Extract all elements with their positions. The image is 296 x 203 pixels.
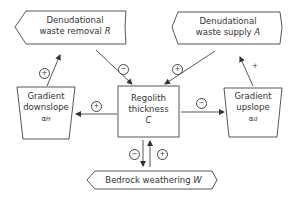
- sign-removal-regolith: −: [118, 64, 129, 75]
- bedrock-node: Bedrock weathering W: [95, 175, 212, 186]
- supply-line2: waste supply A: [178, 27, 278, 38]
- downslope-line2: downslope: [17, 102, 75, 113]
- sign-bedrock-regolith: +: [157, 149, 168, 160]
- sign-downslope-removal: +: [39, 68, 50, 79]
- removal-node: Denudational waste removal R: [30, 15, 120, 37]
- upslope-line2: upslope: [224, 102, 282, 113]
- removal-line1: Denudational: [30, 15, 120, 26]
- downslope-node: Gradient downslope αH: [17, 91, 75, 125]
- regolith-node: Regolith thickness C: [118, 93, 179, 126]
- downslope-symbol: αH: [17, 113, 75, 125]
- upslope-line1: Gradient: [224, 91, 282, 102]
- sign-supply-regolith: +: [172, 64, 183, 75]
- upslope-node: Gradient upslope αd: [224, 91, 282, 125]
- regolith-line1: Regolith: [118, 93, 179, 104]
- sign-regolith-bedrock: −: [129, 149, 140, 160]
- regolith-symbol: C: [118, 115, 179, 126]
- removal-line2: waste removal R: [30, 26, 120, 37]
- upslope-symbol: αd: [224, 113, 282, 125]
- regolith-line2: thickness: [118, 104, 179, 115]
- sign-regolith-downslope: +: [91, 101, 102, 112]
- sign-upslope-supply: +: [252, 62, 258, 70]
- supply-node: Denudational waste supply A: [178, 16, 278, 38]
- sign-regolith-upslope: −: [196, 98, 207, 109]
- supply-line1: Denudational: [178, 16, 278, 27]
- downslope-line1: Gradient: [17, 91, 75, 102]
